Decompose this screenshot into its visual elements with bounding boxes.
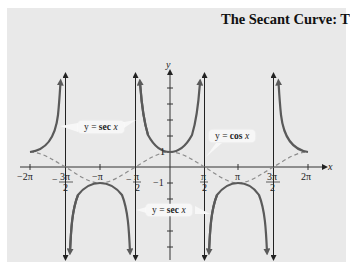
svg-text:−: − bbox=[126, 174, 132, 185]
sec-branch-right-top bbox=[279, 82, 309, 152]
sec-branch-neg-pi bbox=[70, 183, 130, 252]
svg-text:2: 2 bbox=[202, 182, 207, 193]
tick-label-neg-2pi: −2π bbox=[17, 171, 33, 182]
svg-text:π: π bbox=[134, 171, 139, 182]
sec-branch-left-top bbox=[30, 82, 61, 152]
svg-text:2: 2 bbox=[63, 182, 68, 193]
sec-branch-center-start bbox=[140, 82, 148, 135]
sec-branch-pi bbox=[209, 183, 267, 252]
callout-sec-lower: y = sec x bbox=[146, 204, 192, 216]
tick-label-y-1: 1 bbox=[160, 146, 165, 157]
tick-label-neg-3pi-2: − 3π 2 bbox=[52, 171, 73, 193]
svg-text:2: 2 bbox=[270, 182, 275, 193]
sec-branch-pi-start bbox=[209, 195, 217, 252]
tick-label-y-neg-1: −1 bbox=[153, 177, 164, 188]
sec-branch-neg-pi-start bbox=[70, 195, 78, 252]
tick-label-neg-pi: −π bbox=[92, 171, 103, 182]
svg-text:3π: 3π bbox=[267, 171, 277, 182]
callout-sec-upper: y = sec x bbox=[78, 121, 124, 133]
tick-label-3pi-2: 3π 2 bbox=[266, 171, 280, 193]
callout-cos: y = cos x bbox=[209, 130, 255, 142]
tick-label-pi-2: π 2 bbox=[200, 171, 208, 193]
svg-text:3π: 3π bbox=[60, 171, 70, 182]
tick-label-2pi: 2π bbox=[301, 171, 311, 182]
svg-text:−: − bbox=[52, 174, 58, 185]
tick-label-neg-pi-2: − π 2 bbox=[126, 171, 141, 193]
tick-label-pi: π bbox=[235, 171, 240, 182]
x-axis-label: x bbox=[327, 161, 333, 172]
svg-text:π: π bbox=[201, 171, 206, 182]
svg-text:2: 2 bbox=[135, 182, 140, 193]
y-axis-label: y bbox=[165, 59, 171, 70]
